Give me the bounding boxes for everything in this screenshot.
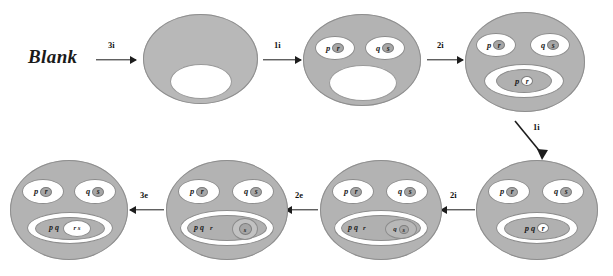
token-plain: p q	[348, 224, 358, 232]
stage-5-nested-oval: q s	[385, 219, 417, 239]
stage-6-nested-oval: s	[232, 218, 258, 240]
token-plain: p	[515, 77, 519, 86]
token-plain: p q	[194, 224, 204, 232]
token-plain: q	[86, 187, 90, 196]
stage-4-bottom-oval: p q r	[496, 212, 578, 244]
arrow-head-icon	[457, 56, 464, 64]
arrow-2i-a	[427, 53, 463, 67]
token-plain: p	[190, 187, 194, 196]
stage-7-nested-oval: r s	[63, 220, 91, 237]
stage-5-bottom-oval: p q r q s	[334, 210, 428, 246]
stage-2-blob: p r q s	[303, 14, 421, 106]
token-disc: s	[250, 187, 262, 197]
arrow-2i-b	[441, 203, 475, 217]
arrow-3e	[130, 203, 164, 217]
stage-7-top-oval-left: p r	[22, 179, 64, 204]
diagram-canvas: Blank 3i 1i p r q s 2i p r	[0, 0, 613, 276]
token-disc: s	[399, 225, 409, 234]
stage-6-top-oval-left: p r	[178, 179, 220, 204]
stage-7-blob: p r q s p q r s	[10, 160, 128, 260]
token-plain: q	[393, 226, 397, 233]
blank-start-label: Blank	[28, 46, 78, 68]
stage-3-top-oval-left: p r	[476, 33, 516, 57]
stage-3-bottom-inner-oval: p r	[496, 69, 552, 93]
arrow-label-2e: 2e	[295, 190, 303, 200]
arrow-head-icon	[129, 206, 136, 214]
stage-7-bottom-oval: p q r s	[27, 212, 113, 244]
token-plain: p q	[525, 224, 536, 233]
arrow-label-1i-diagonal: 1i	[533, 122, 540, 132]
token-disc: s	[547, 40, 559, 50]
token-plain: q	[398, 187, 402, 196]
stage-1-blob	[143, 14, 258, 104]
token-plain: q	[244, 187, 248, 196]
arrow-label-1i-a: 1i	[274, 40, 281, 50]
token-plain: q	[376, 44, 380, 53]
stage-7-bottom-inner-oval: p q r s	[35, 217, 105, 240]
token-disc: s	[560, 187, 572, 197]
token-disc: r s	[73, 225, 80, 232]
stage-4-bottom-inner-oval: p q r	[504, 217, 570, 240]
token-plain: p	[34, 187, 38, 196]
token-disc: r	[350, 187, 362, 197]
token-plain: p	[326, 44, 330, 53]
token-disc: r	[210, 225, 213, 232]
token-disc: r	[332, 43, 344, 53]
stage-3-top-oval-right: q s	[530, 33, 570, 57]
token-disc: r	[363, 225, 366, 232]
arrow-label-2i-b: 2i	[450, 190, 457, 200]
arrow-2e	[286, 203, 318, 217]
stage-6-bottom-inner-oval: p q r s	[187, 215, 267, 241]
token-plain: p	[344, 187, 348, 196]
token-plain: p	[487, 41, 491, 50]
token-plain: p q	[49, 224, 59, 232]
stage-1-mouth	[170, 64, 232, 99]
stage-6-top-oval-right: q s	[232, 179, 274, 204]
token-disc: r	[506, 187, 518, 197]
token-disc: r	[40, 187, 52, 197]
token-disc: r	[521, 76, 533, 86]
stage-3-blob: p r q s p r	[465, 12, 585, 112]
arrow-label-3i: 3i	[108, 40, 115, 50]
token-disc: r	[537, 223, 549, 233]
arrow-3i	[96, 53, 136, 67]
arrow-1i-a	[263, 53, 301, 67]
stage-3-bottom-oval: p r	[484, 64, 564, 98]
stage-2-top-oval-right: q s	[365, 36, 405, 60]
stage-5-top-oval-left: p r	[332, 179, 374, 204]
token-disc: s	[404, 187, 416, 197]
stage-6-blob: p r q s p q r s	[166, 160, 288, 260]
arrow-label-3e: 3e	[140, 190, 148, 200]
arrow-label-2i-a: 2i	[437, 40, 444, 50]
stage-4-blob: p r q s p q r	[476, 160, 598, 260]
stage-2-mouth	[329, 65, 397, 101]
stage-7-top-oval-right: q s	[74, 179, 116, 204]
token-disc: r	[493, 40, 505, 50]
token-disc: s	[382, 43, 394, 53]
token-plain: q	[541, 41, 545, 50]
arrow-head-icon	[295, 56, 302, 64]
arrow-head-icon	[130, 56, 137, 64]
stage-5-bottom-inner-oval: p q r q s	[341, 215, 421, 241]
token-disc: s	[92, 187, 104, 197]
stage-5-blob: p r q s p q r q s	[320, 160, 442, 260]
token-disc: r	[196, 187, 208, 197]
token-plain: q	[554, 187, 558, 196]
token-plain: p	[500, 187, 504, 196]
stage-6-bottom-oval: p q r s	[180, 210, 274, 246]
stage-2-top-oval-left: p r	[315, 36, 355, 60]
token-disc: s	[239, 223, 252, 235]
stage-4-top-oval-left: p r	[488, 179, 530, 204]
stage-5-top-oval-right: q s	[386, 179, 428, 204]
stage-4-top-oval-right: q s	[542, 179, 584, 204]
